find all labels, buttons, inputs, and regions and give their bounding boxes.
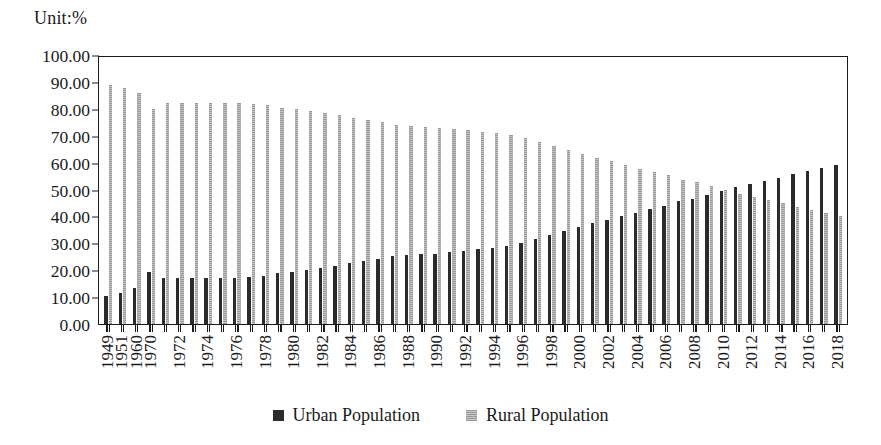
bar-urban xyxy=(233,278,236,324)
bar-urban xyxy=(290,272,293,324)
bar-rural xyxy=(509,135,512,324)
x-axis-tick-mark xyxy=(438,325,439,332)
bar-urban xyxy=(376,259,379,324)
bar-urban xyxy=(748,184,751,324)
bar-rural xyxy=(581,154,584,324)
bar-rural xyxy=(366,120,369,324)
x-axis-tick-mark xyxy=(393,325,394,332)
x-axis-tick-mark xyxy=(409,325,410,332)
bar-rural xyxy=(180,103,183,324)
x-axis-tick-mark xyxy=(579,325,580,332)
x-axis-tick-mark xyxy=(810,325,811,332)
x-axis-label: 1992 xyxy=(459,335,473,397)
x-axis-label-cell: 2008 xyxy=(688,333,702,395)
bar-group xyxy=(287,57,301,324)
bar-urban xyxy=(519,243,522,324)
x-axis-label: 1972 xyxy=(173,335,187,397)
bar-rural xyxy=(538,142,541,324)
bar-rural xyxy=(724,190,727,324)
x-axis-tick-mark xyxy=(364,325,365,332)
x-axis-tick xyxy=(445,325,459,332)
x-axis-label: 1974 xyxy=(201,335,215,397)
x-axis-label-cell: 1988 xyxy=(402,333,416,395)
x-axis-tick-mark xyxy=(164,325,165,332)
bar-rural xyxy=(323,113,326,324)
bar-group xyxy=(788,57,802,324)
x-axis-tick xyxy=(545,325,559,332)
x-axis-tick xyxy=(258,325,272,332)
bar-group xyxy=(402,57,416,324)
x-axis-label: 2004 xyxy=(631,335,645,397)
x-axis-label-cell: 2010 xyxy=(716,333,730,395)
bar-rural xyxy=(166,103,169,324)
x-axis-tick-mark xyxy=(436,325,437,332)
x-axis-tick xyxy=(115,325,129,332)
x-axis-tick-mark xyxy=(278,325,279,332)
x-axis-tick-mark xyxy=(793,325,794,332)
bar-urban xyxy=(777,178,780,324)
x-axis-label: 2014 xyxy=(774,335,788,397)
x-axis-tick-mark xyxy=(839,325,840,332)
bar-urban xyxy=(534,239,537,324)
x-axis-tick-mark xyxy=(765,325,766,332)
x-axis-tick-mark xyxy=(722,325,723,332)
x-axis-tick xyxy=(516,325,530,332)
x-axis-tick-mark xyxy=(524,325,525,332)
x-axis-label: 2016 xyxy=(802,335,816,397)
x-axis-tick-mark xyxy=(624,325,625,332)
x-axis-label: 2006 xyxy=(659,335,673,397)
bar-rural xyxy=(237,103,240,324)
bar-rural xyxy=(495,133,498,324)
x-axis-tick-mark xyxy=(381,325,382,332)
bar-rural xyxy=(624,165,627,324)
bar-group xyxy=(115,57,129,324)
x-axis-tick xyxy=(831,325,845,332)
y-axis-tick-label: 10.00 xyxy=(51,288,90,309)
x-axis-tick xyxy=(101,325,115,332)
bar-group xyxy=(716,57,730,324)
x-axis-tick-mark xyxy=(736,325,737,332)
x-axis-tick-mark xyxy=(321,325,322,332)
x-axis-tick-mark xyxy=(293,325,294,332)
bar-rural xyxy=(595,158,598,324)
x-axis-tick-mark xyxy=(178,325,179,332)
bar-rural xyxy=(810,210,813,324)
bar-urban xyxy=(176,278,179,324)
x-axis-tick-mark xyxy=(195,325,196,332)
legend-item[interactable]: Rural Population xyxy=(466,405,609,426)
bar-rural xyxy=(438,128,441,324)
x-axis-label: 1994 xyxy=(488,335,502,397)
x-axis-tick-mark xyxy=(779,325,780,332)
x-axis-tick-mark xyxy=(567,325,568,332)
bar-rural xyxy=(824,213,827,324)
bar-rural xyxy=(424,127,427,324)
x-axis-tick xyxy=(817,325,831,332)
x-axis-tick xyxy=(330,325,344,332)
bar-rural xyxy=(152,109,155,324)
bar-group xyxy=(344,57,358,324)
x-axis-tick-mark xyxy=(552,325,553,332)
bar-group xyxy=(258,57,272,324)
bar-urban xyxy=(133,288,136,324)
bar-group xyxy=(216,57,230,324)
x-axis-tick xyxy=(602,325,616,332)
x-axis-label-cell: 2014 xyxy=(774,333,788,395)
bar-group xyxy=(674,57,688,324)
x-axis-tick xyxy=(588,325,602,332)
x-axis-tick-mark xyxy=(509,325,510,332)
x-axis-tick-mark xyxy=(335,325,336,332)
bar-rural xyxy=(738,194,741,324)
bar-rural xyxy=(137,93,140,324)
bar-group xyxy=(745,57,759,324)
bar-urban xyxy=(476,249,479,324)
bar-rural xyxy=(280,108,283,324)
bar-rural xyxy=(481,132,484,324)
x-axis-label-cell: 2016 xyxy=(802,333,816,395)
bar-rural xyxy=(796,207,799,324)
x-axis-tick-mark xyxy=(595,325,596,332)
bar-urban xyxy=(806,171,809,324)
bar-group xyxy=(230,57,244,324)
x-axis-tick-mark xyxy=(137,325,138,332)
bar-group xyxy=(573,57,587,324)
legend-item[interactable]: Urban Population xyxy=(273,405,421,426)
